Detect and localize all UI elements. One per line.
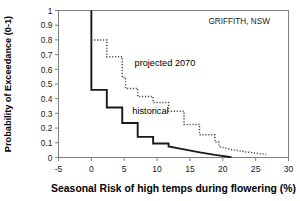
x-axis-label: Seasonal Risk of high temps during flowe… xyxy=(51,183,296,194)
y-axis-tick-label: 0.6 xyxy=(41,65,53,75)
y-axis-tick-label: 0.8 xyxy=(41,35,53,45)
y-axis-tick-label: 0.2 xyxy=(41,123,53,133)
series-line-historical xyxy=(91,11,230,158)
y-axis-tick-label: 0.9 xyxy=(41,20,53,30)
exceedance-probability-chart: 00.10.20.30.40.50.60.70.80.91-5051015202… xyxy=(0,0,300,201)
plot-frame xyxy=(59,11,289,158)
y-axis-label: Probability of Exceedance (0-1) xyxy=(3,16,13,152)
x-axis-tick-label: 25 xyxy=(251,164,261,174)
x-axis-tick-label: 10 xyxy=(152,164,162,174)
x-axis-tick-label: 15 xyxy=(185,164,195,174)
x-axis-tick-label: -5 xyxy=(55,164,63,174)
x-axis-tick-label: 30 xyxy=(284,164,294,174)
series-label-historical: historical xyxy=(132,106,168,116)
y-axis-tick-label: 0.4 xyxy=(41,94,53,104)
site-annotation: GRIFFITH, NSW xyxy=(209,17,271,26)
series-label-projected-2070: projected 2070 xyxy=(135,58,196,68)
y-axis-tick-label: 0.1 xyxy=(41,138,53,148)
x-axis-tick-label: 0 xyxy=(89,164,94,174)
y-axis-tick-label: 0.7 xyxy=(41,50,53,60)
x-axis-tick-label: 20 xyxy=(218,164,228,174)
y-axis-tick-label: 0.5 xyxy=(41,79,53,89)
x-axis-tick-label: 5 xyxy=(122,164,127,174)
y-axis-tick-label: 0 xyxy=(48,153,53,163)
y-axis-tick-label: 1 xyxy=(48,6,53,16)
chart-figure: 00.10.20.30.40.50.60.70.80.91-5051015202… xyxy=(0,0,300,201)
y-axis-tick-label: 0.3 xyxy=(41,109,53,119)
